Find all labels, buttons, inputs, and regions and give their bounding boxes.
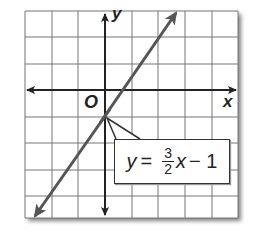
fraction-denominator: 2	[164, 162, 172, 177]
equation-x: x	[176, 150, 186, 173]
fraction-numerator: 3	[162, 146, 174, 162]
equation-equals: =	[141, 150, 153, 173]
equation-callout: y = 3 2 x − 1	[114, 139, 230, 184]
origin-label: O	[84, 92, 98, 113]
equation-y: y	[127, 150, 137, 173]
equation-constant: − 1	[189, 150, 217, 173]
x-axis-label: x	[223, 92, 232, 112]
y-axis-label: y	[112, 4, 121, 24]
coordinate-plane	[0, 0, 255, 242]
equation-fraction: 3 2	[162, 146, 174, 177]
